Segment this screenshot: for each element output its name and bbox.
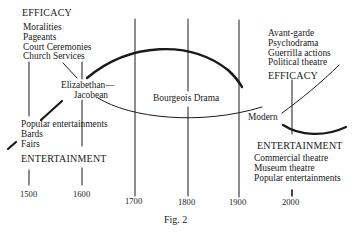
- period-bourgeois-drama: Bourgeois Drama: [153, 94, 219, 104]
- list-item: Political theatre: [268, 58, 331, 68]
- list-item: Church Services: [23, 52, 91, 62]
- year-label-1600: 1600: [73, 189, 90, 199]
- period-modern: Modern: [248, 113, 278, 123]
- connector-church-to-elizabethan: [63, 63, 77, 78]
- year-label-1700: 1700: [125, 196, 142, 206]
- figure-caption: Fig. 2: [164, 214, 187, 225]
- year-label-1500: 1500: [20, 189, 37, 199]
- period-elizabethan-jacobean: Elizabethan— Jacobean: [61, 81, 115, 101]
- year-label-2000: 2000: [282, 197, 299, 207]
- efficacy-heading-right: EFFICACY: [268, 71, 318, 81]
- top-right-items: Avant-garde Psychodrama Guerrilla action…: [268, 29, 331, 68]
- top-left-block: EFFICACY: [22, 8, 72, 18]
- year-label-1800: 1800: [178, 197, 195, 207]
- period-label-line2: Jacobean: [61, 91, 115, 101]
- efficacy-heading-left: EFFICACY: [22, 8, 72, 18]
- top-left-items: Moralities Pageants Court Ceremonies Chu…: [23, 23, 91, 62]
- bottom-right-items: Commercial theatre Museum theatre Popula…: [254, 154, 341, 183]
- entertainment-heading-right: ENTERTAINMENT: [257, 141, 343, 151]
- entertainment-heading-left: ENTERTAINMENT: [21, 154, 107, 164]
- bottom-left-items: Popular entertainments Bards Fairs: [21, 120, 108, 149]
- year-label-1900: 1900: [229, 197, 246, 207]
- fairs-strand: [8, 142, 16, 149]
- list-item: Popular entertainments: [254, 174, 341, 184]
- entertainment-to-elizabethan-strand: [41, 101, 62, 120]
- list-item: Fairs: [21, 140, 108, 150]
